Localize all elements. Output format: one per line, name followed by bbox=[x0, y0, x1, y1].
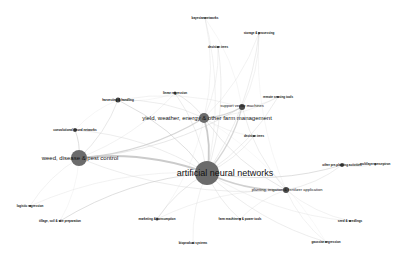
node-label-seed[interactable]: seed & seedlings bbox=[338, 220, 363, 223]
edge-planting-marketing bbox=[157, 190, 286, 219]
node-label-ann[interactable]: artificial neural networks bbox=[177, 169, 274, 178]
node-label-marketing[interactable]: marketing & consumption bbox=[138, 218, 175, 221]
node-label-planting[interactable]: planting, irrigation & fertilizer applic… bbox=[252, 188, 323, 192]
edge-svm-storage bbox=[242, 33, 259, 107]
node-label-cnn[interactable]: convolutional neural networks bbox=[53, 129, 96, 132]
edge-storage-planting bbox=[258, 33, 286, 190]
node-label-gpr[interactable]: gaussian regression bbox=[311, 241, 340, 244]
edge-weed-linreg bbox=[79, 93, 175, 158]
node-label-storage[interactable]: storage & processing bbox=[244, 32, 275, 35]
node-label-dectree[interactable]: decision trees bbox=[208, 46, 228, 49]
node-label-bayesian[interactable]: bayesian networks bbox=[192, 17, 219, 20]
edge-yield-dectree bbox=[204, 47, 218, 118]
edge-weed-logreg bbox=[30, 158, 79, 206]
edge-ann-logreg bbox=[30, 172, 207, 206]
node-label-logreg[interactable]: logistic regression bbox=[17, 205, 44, 208]
node-label-tillage[interactable]: tillage, soil & site preparation bbox=[39, 220, 81, 223]
node-label-weed[interactable]: weed, disease & pest control bbox=[42, 155, 119, 161]
edge-yield-bayesian bbox=[204, 18, 211, 118]
node-label-multilayer[interactable]: multilayer perceptron bbox=[360, 163, 391, 166]
edge-planting-seed bbox=[286, 190, 350, 221]
edge-planting-gpr bbox=[286, 190, 326, 242]
node-label-svm[interactable]: support vector machines bbox=[220, 104, 264, 108]
node-label-preplant[interactable]: other pre-planting activities bbox=[322, 164, 361, 167]
node-label-farmmach[interactable]: farm machinery & power tools bbox=[218, 218, 261, 221]
node-label-bio[interactable]: bioproduct systems bbox=[179, 242, 208, 245]
node-label-harvest[interactable]: harvesting & handling bbox=[102, 99, 134, 102]
node-label-tsr[interactable]: remote sensing tools bbox=[263, 96, 293, 99]
edge-ann-harvest bbox=[118, 100, 207, 173]
edge-ann-tillage bbox=[60, 173, 207, 221]
edge-weed-yield bbox=[79, 118, 204, 158]
edge-ann-seed bbox=[207, 173, 350, 221]
node-label-yield[interactable]: yield, weather, energy & other farm mana… bbox=[142, 115, 272, 121]
node-label-decision[interactable]: decision trees bbox=[244, 135, 264, 138]
node-label-linreg[interactable]: linear regression bbox=[163, 92, 187, 95]
